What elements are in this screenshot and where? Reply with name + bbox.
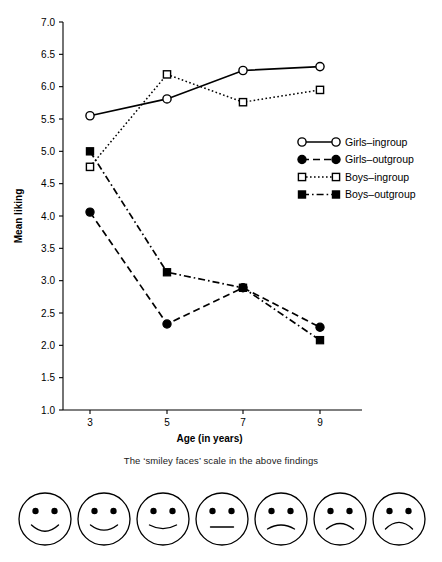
face-outline (78, 493, 130, 545)
legend-item[interactable]: Boys–ingroup (298, 171, 409, 183)
chart-legend: Girls–ingroupGirls–outgroupBoys–ingroupB… (298, 136, 416, 201)
x-tick-label: 9 (317, 417, 323, 428)
face-eye-right (110, 508, 116, 514)
legend-marker (298, 191, 305, 198)
y-tick-label: 4.5 (41, 178, 55, 189)
series-line (90, 212, 320, 327)
data-point-marker (239, 66, 247, 74)
y-tick-label: 1.0 (41, 405, 55, 416)
y-tick-label: 2.0 (41, 340, 55, 351)
data-point-marker (86, 163, 93, 170)
legend-marker (332, 138, 340, 146)
face-eye-right (228, 508, 234, 514)
figure-container: 1.01.52.02.53.03.54.04.55.05.56.06.57.03… (0, 0, 442, 562)
data-point-marker (239, 284, 246, 291)
y-tick-label: 6.5 (41, 49, 55, 60)
face-eye-left (91, 508, 97, 514)
x-tick-label: 5 (164, 417, 170, 428)
face-outline (19, 493, 71, 545)
legend-item[interactable]: Boys–outgroup (298, 188, 415, 200)
legend-label: Boys–ingroup (345, 171, 409, 183)
y-tick-label: 2.5 (41, 308, 55, 319)
data-point-marker (239, 99, 246, 106)
series-line (90, 67, 320, 116)
y-tick-label: 3.0 (41, 275, 55, 286)
y-tick-label: 7.0 (41, 17, 55, 28)
legend-marker (298, 173, 305, 180)
line-chart: 1.01.52.02.53.03.54.04.55.05.56.06.57.03… (0, 0, 442, 450)
face-eye-right (51, 508, 57, 514)
face-eye-left (209, 508, 215, 514)
x-tick-label: 7 (240, 417, 246, 428)
legend-label: Boys–outgroup (345, 188, 416, 200)
figure-caption: The ‘smiley faces’ scale in the above fi… (0, 455, 442, 466)
data-point-marker (163, 95, 171, 103)
series-3 (86, 148, 323, 344)
face-outline (373, 493, 425, 545)
legend-item[interactable]: Girls–outgroup (298, 153, 414, 165)
data-point-marker (86, 112, 94, 120)
face-happy (78, 493, 130, 545)
x-axis-title: Age (in years) (176, 433, 242, 444)
face-outline (255, 493, 307, 545)
face-neutral (196, 493, 248, 545)
legend-marker (332, 173, 339, 180)
legend-item[interactable]: Girls–ingroup (298, 136, 408, 148)
series-0 (86, 63, 324, 120)
face-eye-left (150, 508, 156, 514)
y-tick-label: 6.0 (41, 81, 55, 92)
face-outline (137, 493, 189, 545)
legend-marker (332, 155, 340, 163)
face-very-sad (373, 493, 425, 545)
y-tick-label: 5.5 (41, 114, 55, 125)
y-tick-label: 1.5 (41, 372, 55, 383)
y-tick-label: 4.0 (41, 211, 55, 222)
face-outline (196, 493, 248, 545)
face-sad (314, 493, 366, 545)
series-2 (86, 71, 323, 171)
legend-marker (332, 191, 339, 198)
x-tick-label: 3 (87, 417, 93, 428)
face-eye-left (32, 508, 38, 514)
series-line (90, 74, 320, 166)
legend-label: Girls–ingroup (345, 136, 408, 148)
face-outline (314, 493, 366, 545)
data-point-marker (316, 86, 323, 93)
data-point-marker (316, 63, 324, 71)
series-line (90, 151, 320, 340)
data-point-marker (163, 269, 170, 276)
data-point-marker (163, 320, 171, 328)
face-eye-left (386, 508, 392, 514)
y-axis-title: Mean liking (13, 189, 24, 243)
face-very-happy (19, 493, 71, 545)
face-eye-right (346, 508, 352, 514)
data-point-marker (163, 71, 170, 78)
smiley-faces-scale (0, 486, 442, 560)
face-slightly-sad (255, 493, 307, 545)
data-point-marker (86, 208, 94, 216)
face-eye-right (405, 508, 411, 514)
legend-marker (298, 155, 306, 163)
legend-marker (298, 138, 306, 146)
y-tick-label: 5.0 (41, 146, 55, 157)
y-tick-label: 3.5 (41, 243, 55, 254)
data-point-marker (316, 323, 324, 331)
face-eye-left (327, 508, 333, 514)
face-eye-left (268, 508, 274, 514)
data-point-marker (86, 148, 93, 155)
series-1 (86, 208, 324, 331)
data-point-marker (316, 337, 323, 344)
face-slightly-happy (137, 493, 189, 545)
legend-label: Girls–outgroup (345, 153, 414, 165)
face-eye-right (169, 508, 175, 514)
face-eye-right (287, 508, 293, 514)
